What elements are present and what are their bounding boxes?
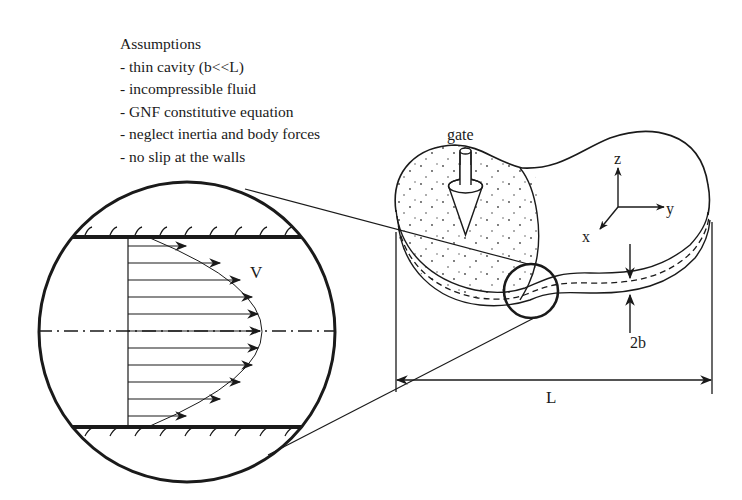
x-axis-label: x: [582, 228, 590, 245]
injection-molding-diagram: Assumptions - thin cavity (b<<L) - incom…: [0, 0, 742, 500]
thickness-label: 2b: [630, 334, 646, 351]
gate-cylinder-top: [460, 148, 471, 154]
velocity-label: V: [250, 263, 263, 282]
velocity-profile-curve: [150, 238, 262, 426]
coordinate-axes: [600, 168, 664, 229]
top-wall-hatching: [85, 227, 292, 235]
magnified-flow-view: V: [30, 182, 345, 482]
magnifier-circle: [39, 182, 335, 482]
y-axis-label: y: [666, 200, 674, 218]
zoom-line-lower: [268, 317, 536, 455]
mold-cavity-part: gate: [395, 126, 710, 318]
diagram-canvas: V: [0, 0, 742, 500]
length-label: L: [546, 388, 556, 407]
velocity-arrows: [128, 246, 260, 416]
x-axis-arrow: [600, 207, 618, 229]
bottom-wall-hatching: [85, 428, 292, 436]
gate-label: gate: [447, 126, 474, 144]
z-axis-label: z: [614, 150, 621, 167]
